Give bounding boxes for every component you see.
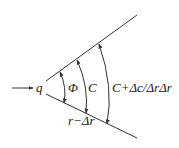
middle-arc: [77, 60, 87, 113]
inner-angle-arc: [60, 72, 65, 103]
upper-boundary-line: [46, 15, 137, 81]
outer-arc: [99, 44, 109, 124]
label-c-delta: C+Δc/ΔrΔr: [112, 80, 173, 95]
label-c: C: [88, 80, 97, 95]
diagram-canvas: q Φ C C+Δc/ΔrΔr r−Δr: [0, 0, 179, 148]
label-r-delta: r−Δr: [68, 113, 95, 128]
label-phi: Φ: [68, 80, 78, 95]
label-q: q: [36, 80, 43, 95]
